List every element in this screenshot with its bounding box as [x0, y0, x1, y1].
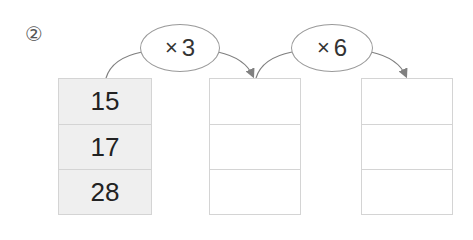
input-cell: 17 [59, 124, 151, 169]
operand: 6 [334, 34, 347, 62]
answer-column-x6 [361, 78, 453, 215]
multiply-symbol: × [165, 35, 178, 61]
answer-cell[interactable] [210, 169, 300, 214]
answer-cell[interactable] [362, 79, 452, 124]
input-cell: 15 [59, 79, 151, 124]
connector-line [256, 52, 292, 78]
operation-oval-x3: ×3 [140, 24, 220, 72]
answer-cell[interactable] [210, 124, 300, 169]
arrow-icon [218, 52, 253, 76]
operand: 3 [182, 34, 195, 62]
answer-column-x3 [209, 78, 301, 215]
input-column: 15 17 28 [58, 78, 152, 215]
input-cell: 28 [59, 169, 151, 214]
answer-cell[interactable] [362, 169, 452, 214]
answer-cell[interactable] [362, 124, 452, 169]
answer-cell[interactable] [210, 79, 300, 124]
arrow-icon [371, 52, 406, 76]
operation-oval-x6: ×6 [291, 24, 373, 72]
connector-line [106, 52, 142, 78]
multiply-symbol: × [317, 35, 330, 61]
